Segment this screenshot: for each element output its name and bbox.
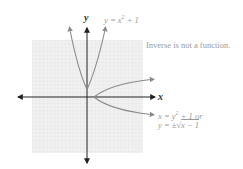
not-function-note: Inverse is not a function. — [146, 41, 230, 50]
equation-text: y = x — [104, 15, 122, 25]
inverse-equation-label-line1: x = y2 + 1 or — [158, 110, 202, 120]
graph-canvas — [0, 0, 243, 169]
x-axis-label: x — [158, 92, 163, 102]
parabola-right-arrow-icon — [105, 27, 106, 30]
inverse-equation-label-line2: y = ±√x − 1 — [158, 121, 199, 130]
parabola-left-arrow-icon — [70, 27, 71, 30]
equation-text: y = ± — [158, 120, 176, 130]
inverse-function-diagram: y x y = x2 + 1 Inverse is not a function… — [0, 0, 243, 169]
radicand: x − 1 — [181, 120, 199, 130]
equation-text: + 1 — [125, 15, 139, 25]
y-axis-label: y — [84, 13, 88, 23]
parabola-equation-label: y = x2 + 1 — [104, 14, 139, 24]
